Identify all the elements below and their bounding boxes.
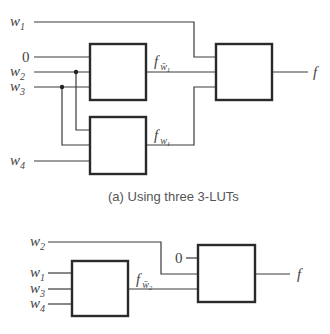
label-b-w2: w2: [30, 233, 45, 252]
label-zero: 0: [22, 49, 30, 65]
lut-circuit-diagram: w1 0 w2 w3 w4 fw̄1 fw1 f (a) Using three…: [0, 0, 330, 334]
label-w1: w1: [10, 13, 25, 32]
lut-2: [90, 117, 146, 174]
lut-3: [216, 44, 272, 100]
label-output-f: f: [313, 64, 319, 80]
label-b-output-f: f: [297, 266, 303, 282]
figure-b: w2 w1 w3 w4 0 fw̄2 f: [30, 233, 303, 316]
label-f-wbar1: fw̄1: [154, 53, 170, 74]
wire-w2-branch: [76, 72, 90, 130]
caption-a: (a) Using three 3-LUTs: [108, 189, 239, 204]
junction-dot-w3: [60, 85, 64, 89]
junction-dot-w2: [74, 70, 78, 74]
lut-a: [72, 261, 128, 316]
label-b-zero: 0: [175, 250, 183, 266]
lut-b: [198, 245, 255, 302]
lut-1: [90, 44, 146, 100]
figure-a: w1 0 w2 w3 w4 fw̄1 fw1 f (a) Using three…: [10, 13, 319, 204]
label-w4: w4: [10, 152, 25, 171]
